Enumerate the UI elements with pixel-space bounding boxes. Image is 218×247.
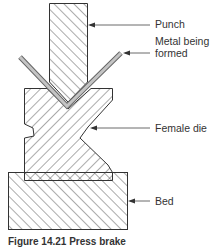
- punch-label: Punch: [155, 18, 185, 30]
- metal-leader: [123, 51, 150, 56]
- figure-caption: Figure 14.21 Press brake: [8, 236, 126, 247]
- female-die-label: Female die: [155, 122, 207, 134]
- metal-label-line2: formed: [155, 47, 188, 59]
- bed-label: Bed: [155, 195, 174, 207]
- bed-leader: [128, 199, 150, 204]
- female-die-leader: [90, 126, 150, 131]
- punch-leader: [88, 23, 150, 28]
- bed-block: [9, 173, 128, 230]
- metal-label-line1: Metal being: [155, 35, 209, 47]
- punch: [50, 4, 88, 103]
